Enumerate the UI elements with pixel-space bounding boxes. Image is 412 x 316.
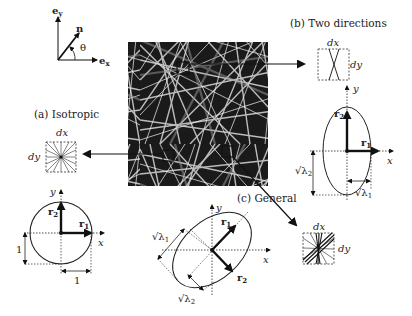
- r2-vector: [212, 250, 232, 271]
- panel-title-general: (c) General: [237, 192, 297, 204]
- svg-text:x: x: [387, 155, 393, 166]
- svg-text:x: x: [263, 254, 269, 265]
- sqrt-lambda1-label: √λ1: [152, 231, 169, 244]
- panel-two-directions: (b) Two directions dx dy y x r2 r1 √λ2 √…: [290, 17, 393, 200]
- svg-text:x: x: [98, 237, 104, 248]
- sqrt-lambda1-label: √λ1: [355, 187, 372, 200]
- ey-label: ey: [52, 5, 63, 18]
- n-label: n: [76, 23, 84, 34]
- n-vector-arrow: [58, 33, 79, 60]
- sqrt-lambda2-label: √λ2: [295, 165, 312, 178]
- dy-label: dy: [338, 243, 350, 254]
- ex-label: ex: [99, 55, 110, 68]
- r2-label: r2: [48, 206, 58, 219]
- panel-general: (c) General y x r1 r2 √λ1 √λ2 dx dy: [152, 192, 350, 306]
- dx-label: dx: [313, 221, 325, 232]
- dy-label: dy: [28, 151, 40, 162]
- panel-title-two-directions: (b) Two directions: [290, 17, 387, 29]
- reference-axes: ey ex n θ: [52, 5, 110, 68]
- dim-label-vertical: 1: [16, 244, 22, 255]
- dy-label: dy: [350, 59, 362, 70]
- r2-label: r2: [334, 108, 344, 121]
- theta-label: θ: [80, 42, 86, 53]
- dx-label: dx: [327, 37, 339, 48]
- svg-text:y: y: [352, 83, 359, 94]
- r1-vector: [212, 226, 235, 250]
- svg-text:y: y: [215, 202, 222, 213]
- panel-isotropic: (a) Isotropic dx dy y x r2 r1 1 1: [16, 108, 104, 286]
- svg-text:y: y: [49, 186, 56, 197]
- element-box: [318, 49, 349, 80]
- dx-label: dx: [56, 127, 68, 138]
- sqrt-lambda2-label: √λ2: [178, 293, 195, 306]
- panel-title-isotropic: (a) Isotropic: [34, 108, 99, 120]
- theta-arc: [70, 47, 75, 60]
- dim-label-horizontal: 1: [74, 275, 80, 286]
- r1-label: r1: [79, 218, 89, 231]
- r2-label: r2: [237, 272, 247, 285]
- r1-label: r1: [221, 216, 231, 229]
- fiber-orientation-diagram: ey ex n θ (b) Two directions dx dy y x r…: [0, 0, 412, 316]
